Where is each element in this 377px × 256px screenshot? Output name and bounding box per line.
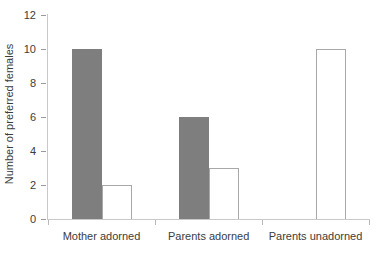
bar-adorned-female-1 <box>179 117 209 219</box>
x-tick-mark <box>262 220 263 225</box>
bar-unadorned-female-2 <box>316 49 346 219</box>
y-tick-mark <box>41 49 46 50</box>
bar-chart-figure: Number of preferred females 024681012 Mo… <box>0 0 377 256</box>
x-axis-category-label: Parents unadorned <box>269 230 363 243</box>
x-tick-mark <box>369 220 370 225</box>
bar-adorned-female-0 <box>72 49 102 219</box>
bar-unadorned-female-0 <box>102 185 132 219</box>
x-tick-mark <box>48 220 49 225</box>
y-tick-label: 4 <box>14 146 36 156</box>
y-tick-label: 8 <box>14 78 36 88</box>
x-axis-category-label: Parents adorned <box>168 230 249 243</box>
y-tick-label: 10 <box>14 44 36 54</box>
bar-unadorned-female-1 <box>209 168 239 219</box>
y-tick-label: 0 <box>14 214 36 224</box>
plot-area <box>48 15 369 219</box>
y-tick-mark <box>41 219 46 220</box>
y-tick-mark <box>41 117 46 118</box>
y-tick-label: 6 <box>14 112 36 122</box>
y-tick-mark <box>41 83 46 84</box>
x-axis-line <box>47 219 370 220</box>
y-tick-label: 12 <box>14 10 36 20</box>
y-tick-label: 2 <box>14 180 36 190</box>
x-tick-mark <box>155 220 156 225</box>
y-axis-title: Number of preferred females <box>2 6 16 222</box>
y-tick-mark <box>41 185 46 186</box>
y-tick-mark <box>41 151 46 152</box>
x-axis-category-label: Mother adorned <box>63 230 141 243</box>
y-tick-mark <box>41 15 46 16</box>
